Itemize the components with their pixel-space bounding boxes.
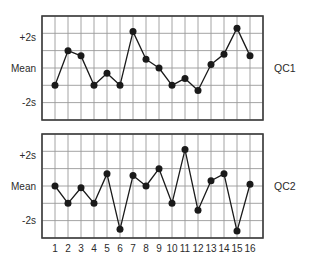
qc2-ytick-minus2s: -2s: [22, 215, 36, 226]
x-tick-label: 3: [78, 243, 84, 254]
x-tick-label: 12: [192, 243, 204, 254]
x-tick-label: 2: [65, 243, 71, 254]
data-point: [195, 207, 202, 214]
x-tick-label: 14: [218, 243, 230, 254]
control-chart-svg: +2s Mean -2s QC1: [0, 0, 321, 272]
data-point: [247, 52, 254, 59]
x-tick-label: 8: [143, 243, 149, 254]
data-point: [156, 65, 163, 72]
data-point: [169, 200, 176, 207]
data-point: [91, 82, 98, 89]
data-point: [221, 170, 228, 177]
qc2-ytick-plus2s: +2s: [20, 150, 36, 161]
data-point: [234, 25, 241, 32]
data-point: [78, 184, 85, 191]
data-point: [130, 172, 137, 179]
data-point: [117, 226, 124, 233]
data-point: [104, 170, 111, 177]
data-point: [52, 183, 59, 190]
data-point: [78, 52, 85, 59]
x-tick-label: 4: [91, 243, 97, 254]
x-tick-label: 1: [52, 243, 58, 254]
data-point: [156, 165, 163, 172]
data-point: [117, 82, 124, 89]
chart-panel-qc1: +2s Mean -2s QC1: [11, 16, 296, 120]
x-tick-label: 9: [156, 243, 162, 254]
data-point: [130, 28, 137, 35]
x-tick-label: 7: [130, 243, 136, 254]
qc1-ytick-mean: Mean: [11, 63, 36, 74]
data-point: [104, 70, 111, 77]
x-tick-label: 13: [205, 243, 217, 254]
data-point: [52, 82, 59, 89]
data-point: [221, 51, 228, 58]
data-point: [234, 228, 241, 235]
qc1-ytick-minus2s: -2s: [22, 97, 36, 108]
data-point: [91, 200, 98, 207]
x-tick-label: 10: [166, 243, 178, 254]
data-point: [65, 200, 72, 207]
levey-jennings-figure: +2s Mean -2s QC1: [0, 0, 321, 272]
data-point: [195, 87, 202, 94]
data-point: [143, 183, 150, 190]
data-point: [169, 82, 176, 89]
data-point: [182, 146, 189, 153]
data-point: [208, 177, 215, 184]
data-point: [208, 61, 215, 68]
qc1-ytick-plus2s: +2s: [20, 32, 36, 43]
qc1-panel-label: QC1: [274, 62, 296, 74]
x-tick-label: 15: [231, 243, 243, 254]
data-point: [65, 47, 72, 54]
data-point: [182, 75, 189, 82]
chart-panel-qc2: +2s Mean -2s QC2 12345678910111213141516: [11, 134, 296, 254]
qc2-ytick-mean: Mean: [11, 181, 36, 192]
x-tick-label: 11: [180, 243, 191, 254]
data-point: [247, 181, 254, 188]
x-tick-label: 5: [104, 243, 110, 254]
data-point: [143, 56, 150, 63]
x-tick-label: 16: [244, 243, 256, 254]
x-tick-label: 6: [117, 243, 123, 254]
qc2-panel-label: QC2: [274, 180, 296, 192]
